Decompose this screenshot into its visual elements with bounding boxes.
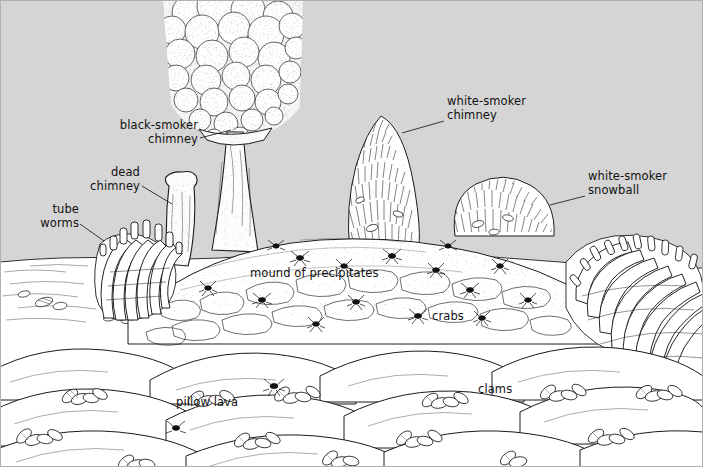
label-crabs: crabs: [432, 310, 482, 324]
label-clams: clams: [478, 383, 528, 397]
label-mound-of-precipitates: mound of precipitates: [250, 267, 390, 281]
label-black-smoker-chimney: black-smoker chimney: [96, 119, 198, 146]
label-white-smoker-snowball: white-smoker snowball: [588, 170, 688, 197]
label-tube-worms: tube worms: [30, 203, 79, 230]
hydrothermal-vent-figure: black-smoker chimney dead chimney tube w…: [0, 0, 703, 467]
vent-field-illustration: [0, 0, 703, 467]
label-dead-chimney: dead chimney: [78, 166, 140, 193]
label-white-smoker-chimney: white-smoker chimney: [447, 95, 547, 122]
label-pillow-lava: pillow lava: [176, 396, 246, 410]
